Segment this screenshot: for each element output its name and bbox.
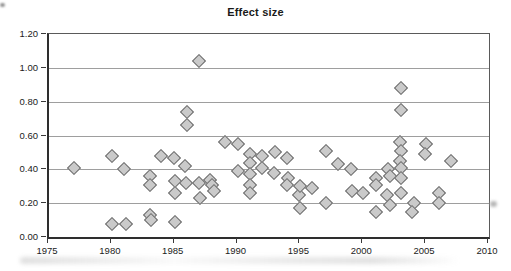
data-point <box>154 149 168 163</box>
scan-smudge-artifact <box>20 257 460 264</box>
data-point <box>394 171 408 185</box>
data-point <box>319 196 333 210</box>
data-point <box>143 178 157 192</box>
data-point <box>218 135 232 149</box>
scan-mark-artifact <box>0 3 5 7</box>
data-point <box>105 216 119 230</box>
x-axis-label: 2000 <box>341 245 381 256</box>
plot-area <box>47 33 490 239</box>
data-point <box>394 103 408 117</box>
data-point <box>168 186 182 200</box>
data-point <box>305 181 319 195</box>
data-point <box>119 216 133 230</box>
data-point <box>394 81 408 95</box>
data-point <box>231 137 245 151</box>
x-axis-label: 2005 <box>404 245 444 256</box>
y-axis-label: 0.80 <box>4 95 38 106</box>
y-tick <box>41 135 46 136</box>
data-point <box>231 164 245 178</box>
data-point <box>180 118 194 132</box>
y-tick <box>41 236 46 237</box>
x-tick <box>361 238 362 243</box>
x-tick <box>236 238 237 243</box>
gridline-y-0.80 <box>49 102 489 103</box>
data-point <box>67 161 81 175</box>
x-axis-label: 1975 <box>27 245 67 256</box>
y-tick <box>41 168 46 169</box>
chart-canvas: Effect size 1.201.000.800.600.400.200.00… <box>0 0 511 271</box>
x-axis-label: 1990 <box>216 245 256 256</box>
x-tick <box>424 238 425 243</box>
y-axis-label: 0.20 <box>4 197 38 208</box>
gridline-y-0.60 <box>49 136 489 137</box>
data-point <box>344 162 358 176</box>
x-axis-label: 1985 <box>153 245 193 256</box>
gridline-y-1.00 <box>49 68 489 69</box>
data-point <box>117 162 131 176</box>
x-axis-label: 1980 <box>90 245 130 256</box>
data-point <box>105 149 119 163</box>
data-point <box>432 196 446 210</box>
data-point <box>178 159 192 173</box>
scan-dot-artifact <box>490 201 497 207</box>
chart-title: Effect size <box>0 6 511 18</box>
x-tick <box>298 238 299 243</box>
data-point <box>356 186 370 200</box>
y-axis-label: 0.40 <box>4 163 38 174</box>
data-point <box>418 147 432 161</box>
data-point <box>180 105 194 119</box>
y-tick <box>41 67 46 68</box>
x-tick <box>487 238 488 243</box>
y-tick <box>41 33 46 34</box>
x-tick <box>173 238 174 243</box>
gridline-y-0.20 <box>49 203 489 204</box>
y-tick <box>41 101 46 102</box>
x-tick <box>110 238 111 243</box>
data-point <box>192 54 206 68</box>
y-axis-label: 0.00 <box>4 231 38 242</box>
x-tick <box>47 238 48 243</box>
x-axis-label: 2010 <box>467 245 507 256</box>
data-point <box>394 186 408 200</box>
data-point <box>280 150 294 164</box>
y-axis-label: 0.60 <box>4 129 38 140</box>
data-point <box>369 205 383 219</box>
data-point <box>444 154 458 168</box>
data-point <box>319 144 333 158</box>
data-point <box>166 150 180 164</box>
y-tick <box>41 202 46 203</box>
data-point <box>168 215 182 229</box>
x-axis-label: 1995 <box>278 245 318 256</box>
y-axis-label: 1.20 <box>4 28 38 39</box>
y-axis-label: 1.00 <box>4 61 38 72</box>
